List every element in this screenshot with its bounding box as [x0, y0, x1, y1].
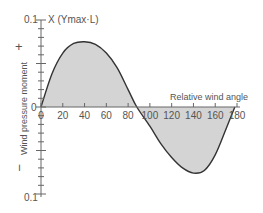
x-tick-label: 180: [229, 110, 246, 121]
negative-sign: −: [12, 164, 27, 172]
x-tick-label: 80: [123, 110, 135, 121]
x-tick-label: 140: [185, 110, 202, 121]
wind-moment-chart: 020406080100120140160180 0.1 X (Ymax·L) …: [0, 0, 263, 213]
y-top-tick-label: 0.1: [24, 14, 38, 25]
x-tick-label: 100: [142, 110, 159, 121]
y-axis-label: Wind pressure moment: [19, 61, 29, 155]
x-tick-label: 160: [207, 110, 224, 121]
y-unit-label: X (Ymax·L): [48, 14, 99, 25]
x-tick-label: 60: [101, 110, 113, 121]
positive-sign: +: [15, 39, 23, 54]
x-tick-label: 0: [38, 110, 44, 121]
x-tick-label: 20: [57, 110, 69, 121]
y-bottom-tick-label: 0.1: [24, 192, 38, 203]
x-tick-label: 120: [163, 110, 180, 121]
y-zero-label: 0: [31, 102, 37, 113]
x-axis-label: Relative wind angle: [170, 92, 248, 102]
x-tick-label: 40: [79, 110, 91, 121]
chart-svg: 020406080100120140160180 0.1 X (Ymax·L) …: [0, 0, 263, 213]
curve-area: [41, 42, 235, 174]
